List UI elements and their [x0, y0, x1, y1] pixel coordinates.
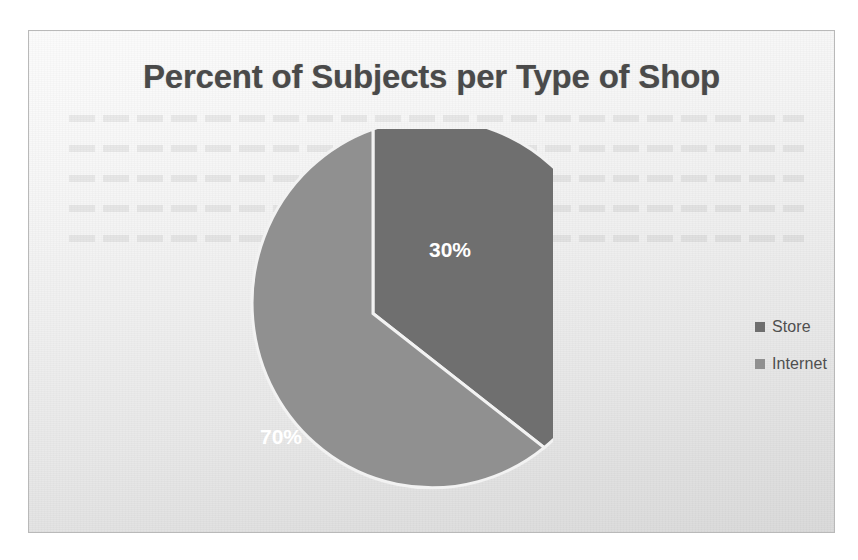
- scanned-page: Percent of Subjects per Type of Shop 30%…: [0, 0, 858, 560]
- legend-swatch-internet-icon: [755, 359, 765, 369]
- legend-label-internet: Internet: [772, 355, 827, 373]
- legend-item-internet[interactable]: Internet: [755, 351, 827, 377]
- legend-swatch-store-icon: [755, 322, 765, 332]
- legend-item-store[interactable]: Store: [755, 314, 827, 340]
- chart-frame: Percent of Subjects per Type of Shop 30%…: [28, 30, 835, 533]
- pie-label-store: 30%: [429, 238, 471, 261]
- chart-legend: Store Internet: [755, 314, 827, 388]
- pie-label-internet: 70%: [260, 425, 302, 448]
- legend-label-store: Store: [772, 318, 811, 336]
- pie-chart-svg: 30% 70%: [193, 129, 553, 498]
- pie-chart: 30% 70%: [193, 129, 553, 498]
- chart-title: Percent of Subjects per Type of Shop: [29, 58, 834, 96]
